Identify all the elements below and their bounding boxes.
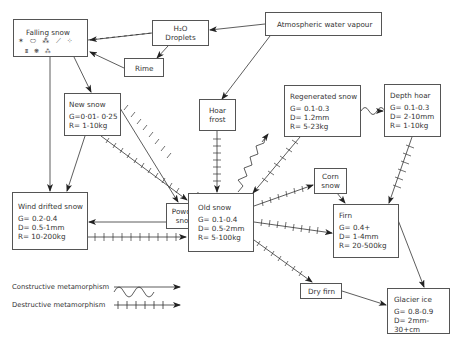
node-title: Glacier ice [394, 295, 449, 304]
node-g-value: G= 0.8-0.9 [394, 307, 449, 316]
node-line2: snow [315, 181, 346, 190]
node-new-snow: New snow G=0·01- 0·25 R= 1-10kg [64, 93, 121, 136]
node-glacier-ice: Glacier ice G= 0.8-0.9 D= 2mm-30+cm [387, 288, 450, 334]
node-r-value: R= 20-500kg [339, 241, 398, 250]
node-title: Regenerated snow [290, 92, 360, 101]
legend-constructive-line [114, 287, 154, 297]
node-wind-drifted-snow: Wind drifted snow G= 0.2-0.4 D= 0.5-1mm … [12, 192, 88, 250]
destructive-old-snow-to-dry-firn [254, 240, 312, 282]
node-title: New snow [69, 100, 120, 109]
snow-crystal-icons: ✶ ⬭ ⁂ ⟋ ⁘ [18, 37, 75, 45]
node-regenerated-snow: Regenerated snow G= 0.1-0.3 D= 1.2mm R= … [284, 85, 361, 137]
node-title: Depth hoar [390, 91, 440, 100]
node-r-value: R= 1-10kg [69, 121, 120, 130]
node-depth-hoar: Depth hoar G= 0.1-0.3 D= 2-10mm R= 1-10k… [384, 84, 441, 137]
arrow-vapour-to-hoar-frost [222, 36, 270, 99]
node-line1: H₂O [153, 24, 208, 33]
arrow-falling-snow-to-new-snow [74, 57, 91, 92]
node-title: Firn [339, 211, 398, 220]
node-d-value: D= 2mm-30+cm [394, 316, 449, 334]
node-title: Rime [135, 64, 153, 73]
snow-crystal-icons-row2: ⩩ ❋ ⁂ [25, 47, 53, 55]
legend-destructive-label: Destructive metamorphism [12, 301, 105, 309]
destructive-old-snow-to-firn [254, 222, 332, 233]
node-corn-snow: Corn snow [314, 168, 347, 194]
node-r-value: R= 5-100kg [198, 233, 253, 242]
destructive-new-snow-to-old-snow [101, 136, 187, 200]
node-r-value: R= 1-10kg [390, 121, 440, 130]
node-hoar-frost: Hoar frost [199, 99, 236, 131]
arrow-dry-firn-to-glacier-ice [342, 291, 386, 305]
node-d-value: D= 1-4mm [339, 232, 398, 241]
arrow-new-snow-to-wind-drifted [67, 136, 85, 191]
node-r-value: R= 10-200kg [18, 232, 87, 241]
node-title: Atmospheric water vapour [277, 20, 372, 29]
node-line1: Hoar [200, 106, 235, 115]
node-g-value: G= 0.1-0.3 [290, 104, 360, 113]
node-g-value: G= 0.1-0.3 [390, 103, 440, 112]
node-firn: Firn G= 0.4+ D= 1-4mm R= 20-500kg [333, 204, 399, 258]
node-d-value: D= 1.2mm [290, 113, 360, 122]
arrow-rime-to-falling-snow [90, 52, 124, 68]
node-g-value: G= 0.4+ [339, 223, 398, 232]
destructive-old-snow-to-corn [254, 185, 313, 206]
node-d-value: D= 2-10mm [390, 112, 440, 121]
node-atmospheric-water-vapour: Atmospheric water vapour [265, 12, 382, 36]
arrow-droplets-to-rime [157, 46, 168, 58]
node-r-value: R= 5-23kg [290, 122, 360, 131]
arrow-firn-to-glacier-ice [398, 220, 424, 287]
node-dry-firn: Dry firn [300, 283, 342, 299]
node-line2: Droplets [153, 33, 208, 42]
node-d-value: D= 0.5-2mm [198, 224, 253, 233]
node-title: Old snow [198, 203, 253, 212]
arrow-vapour-to-droplets [210, 24, 265, 30]
node-old-snow: Old snow G= 0.1-0.4 D= 0.5-2mm R= 5-100k… [188, 193, 254, 252]
node-rime: Rime [124, 58, 164, 77]
node-line2: frost [200, 115, 235, 124]
node-title: Wind drifted snow [18, 202, 87, 211]
node-title: Dry firn [308, 287, 335, 296]
node-line1: Corn [315, 172, 346, 181]
node-title: Falling snow [26, 28, 87, 37]
node-g-value: G=0·01- 0·25 [69, 112, 120, 121]
legend-constructive-label: Constructive metamorphism [12, 283, 109, 291]
node-d-value: D= 0.5-1mm [18, 223, 87, 232]
node-g-value: G= 0.2-0.4 [18, 214, 87, 223]
node-h2o-droplets: H₂O Droplets [152, 20, 209, 46]
node-g-value: G= 0.1-0.4 [198, 215, 253, 224]
